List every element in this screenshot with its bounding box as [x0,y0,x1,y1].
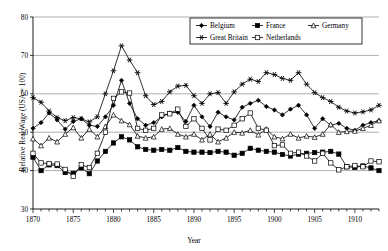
data-point-marker [168,112,172,116]
data-point-marker [87,171,91,175]
data-point-marker [71,174,75,178]
data-point-marker [95,151,99,155]
data-point-marker [369,159,373,163]
data-point-marker [216,127,220,131]
data-point-marker [369,166,373,170]
data-point-marker [337,152,341,156]
data-point-marker [127,91,131,95]
data-point-marker [111,141,115,145]
data-point-marker [95,159,99,163]
data-point-marker [151,126,155,130]
data-point-marker [232,123,236,127]
data-point-marker [111,96,115,100]
data-point-marker [216,149,220,153]
data-point-marker [304,154,308,158]
data-point-marker [312,159,316,163]
x-tick-label: 1885 [147,216,162,224]
data-point-marker [208,138,212,142]
legend-label: Great Britain [210,34,248,42]
data-point-marker [248,111,252,115]
data-point-marker [240,151,244,155]
data-point-marker [192,117,196,121]
data-point-marker [160,147,164,151]
data-point-marker [55,162,59,166]
data-point-marker [160,113,164,117]
data-point-marker [312,150,316,154]
data-point-marker [135,145,139,149]
data-point-marker [168,148,172,152]
data-point-marker [320,151,324,155]
data-point-marker [264,128,268,132]
data-point-marker [192,150,196,154]
data-point-marker [288,151,292,155]
x-tick-label: 1880 [106,216,121,224]
data-point-marker [240,117,244,121]
data-point-marker [377,160,381,164]
data-point-marker [79,163,83,167]
x-tick-label: 1905 [307,216,322,224]
data-point-marker [329,161,333,165]
data-point-marker [280,143,284,147]
data-point-marker [232,153,236,157]
data-point-marker [176,107,180,111]
data-point-marker [296,150,300,154]
data-point-marker [248,146,252,150]
legend: BelgiumFranceGermanyGreat BritainNetherl… [190,18,362,44]
data-point-marker [143,147,147,151]
x-tick-label: 1870 [26,216,41,224]
x-tick-label: 1900 [267,216,282,224]
data-point-marker [103,130,107,134]
data-point-marker [200,150,204,154]
chart-container: 3040506070801870187518801885189018951900… [0,0,388,251]
line-chart-svg: 3040506070801870187518801885189018951900… [0,0,388,251]
data-point-marker [127,138,131,142]
data-point-marker [337,168,341,172]
data-point-marker [255,23,259,27]
y-axis-title: Relative Real Wage (USA = 100) [19,47,27,197]
data-point-marker [103,149,107,153]
data-point-marker [361,165,365,169]
data-point-marker [353,163,357,167]
data-point-marker [256,148,260,152]
data-point-marker [176,145,180,149]
data-point-marker [224,150,228,154]
data-point-marker [224,128,228,132]
data-point-marker [143,128,147,132]
x-tick-label: 1895 [227,216,242,224]
data-point-marker [272,143,276,147]
data-point-marker [151,148,155,152]
x-axis-title: Year [0,236,388,245]
data-point-marker [135,126,139,130]
data-point-marker [184,149,188,153]
legend-label: Belgium [210,22,235,30]
data-point-marker [63,167,67,171]
data-point-marker [272,150,276,154]
data-point-marker [39,161,43,165]
data-point-marker [377,168,381,172]
data-point-marker [119,135,123,139]
y-tick-label: 30 [21,206,29,214]
data-point-marker [87,165,91,169]
data-point-marker [200,126,204,130]
data-point-marker [208,150,212,154]
data-point-marker [184,124,188,128]
data-point-marker [329,149,333,153]
data-point-marker [119,90,123,94]
x-tick-label: 1890 [187,216,202,224]
data-point-marker [256,126,260,130]
data-point-marker [345,165,349,169]
data-point-marker [280,152,284,156]
legend-label: Netherlands [266,34,301,42]
plot-area-background [33,17,379,209]
y-tick-label: 80 [21,14,29,22]
data-point-marker [39,168,43,172]
legend-label: Germany [322,22,349,30]
x-tick-label: 1875 [66,216,81,224]
data-point-marker [31,151,35,155]
data-point-marker [255,35,259,39]
data-point-marker [47,161,51,165]
legend-label: France [266,22,286,30]
data-point-marker [264,149,268,153]
x-tick-label: 1910 [348,216,363,224]
